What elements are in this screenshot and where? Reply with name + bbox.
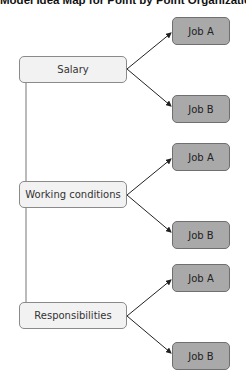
category-responsibilities: Responsibilities bbox=[19, 302, 127, 329]
job-a-salary: Job A bbox=[172, 17, 230, 45]
job-b-working-conditions: Job B bbox=[172, 221, 230, 249]
job-b-salary: Job B bbox=[172, 95, 230, 123]
job-a-working-conditions: Job A bbox=[172, 143, 230, 171]
job-b-responsibilities: Job B bbox=[172, 342, 230, 370]
category-salary: Salary bbox=[19, 56, 127, 83]
category-working-conditions: Working conditions bbox=[19, 181, 127, 208]
job-a-responsibilities: Job A bbox=[172, 264, 230, 292]
